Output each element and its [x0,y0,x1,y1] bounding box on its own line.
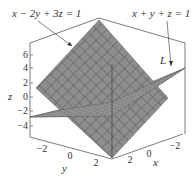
x-axis-label: x [152,156,158,168]
y-tick: 2 [94,157,99,168]
y-axis-label: y [61,162,67,174]
x-tick: −2 [170,140,181,151]
y-tick: −2 [37,143,48,154]
z-tick: 6 [23,49,28,60]
plane1-arrow [38,21,72,46]
x-tick: 0 [147,148,152,159]
plane2-label: x + y + z = 1 [131,7,190,19]
z-tick: −2 [17,105,28,116]
plane2-arrow [167,21,171,66]
plane1-label: x − 2y + 3z = 1 [11,7,81,19]
line-label: L [159,54,166,66]
z-tick: −4 [17,120,28,131]
z-axis-label: z [7,90,13,102]
arrowhead-icon [169,61,173,66]
x-tick: 2 [128,154,133,165]
y-tick: 0 [68,150,73,161]
z-tick: 0 [23,91,28,102]
z-tick: 4 [23,62,28,73]
z-axis: 6 4 2 0 −2 −4 z [7,49,33,131]
y-axis: −2 0 2 y [37,143,99,174]
plane-intersection-figure: 6 4 2 0 −2 −4 z −2 0 2 y 2 0 −2 x x − 2y… [0,0,195,176]
z-tick: 2 [23,77,28,88]
